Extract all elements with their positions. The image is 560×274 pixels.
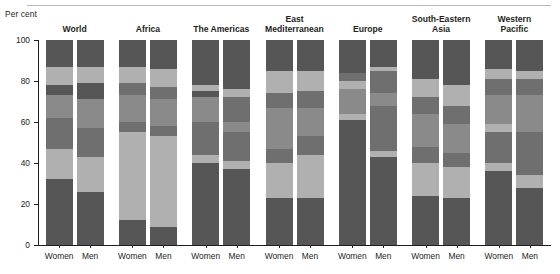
bar-western-pacific-women[interactable] [485, 40, 512, 245]
group-heading-africa: Africa [111, 24, 184, 34]
x-axis-tick [206, 245, 207, 248]
bar-segment [485, 40, 512, 69]
bar-segment [412, 79, 439, 97]
y-axis-caption: Per cent [5, 9, 37, 19]
x-axis-tick [237, 245, 238, 248]
bar-segment [266, 71, 293, 94]
bar-segment [485, 69, 512, 79]
bar-segment [266, 163, 293, 198]
bar-segment [77, 192, 104, 245]
bar-segment [266, 149, 293, 163]
bar-segment [192, 40, 219, 85]
bar-europe-men[interactable] [370, 40, 397, 245]
x-axis-tick [426, 245, 427, 248]
bar-segment [370, 106, 397, 151]
bar-the-americas-women[interactable] [192, 40, 219, 245]
bar-segment [297, 155, 324, 198]
x-axis-tick [163, 245, 164, 248]
bar-segment [192, 122, 219, 155]
x-axis-tick [499, 245, 500, 248]
bar-segment [370, 93, 397, 105]
bar-segment [119, 40, 146, 67]
bar-segment [223, 40, 250, 89]
x-axis-tick [457, 245, 458, 248]
bar-segment [443, 106, 470, 124]
bar-segment [119, 95, 146, 122]
bar-world-women[interactable] [46, 40, 73, 245]
bar-segment [266, 108, 293, 149]
bar-south-eastern-asia-men[interactable] [443, 40, 470, 245]
bar-segment [297, 91, 324, 107]
bar-segment [412, 163, 439, 196]
bar-segment [370, 157, 397, 245]
x-axis-tick [383, 245, 384, 248]
header-divider [27, 5, 551, 6]
bar-segment [339, 40, 366, 73]
bar-segment [150, 40, 177, 69]
bar-segment [485, 79, 512, 95]
bar-segment [339, 114, 366, 120]
bar-segment [266, 93, 293, 107]
bar-segment [297, 71, 324, 92]
group-heading-south-eastern-asia: South-Eastern Asia [404, 14, 477, 34]
bar-segment [119, 122, 146, 132]
bar-africa-men[interactable] [150, 40, 177, 245]
bar-segment [46, 40, 73, 67]
bar-segment [443, 40, 470, 85]
bar-segment [412, 196, 439, 245]
group-heading-western-pacific: Western Pacific [478, 14, 551, 34]
bar-segment [516, 79, 543, 95]
bar-africa-women[interactable] [119, 40, 146, 245]
bar-segment [46, 85, 73, 95]
bar-segment [485, 95, 512, 124]
x-axis-tick [132, 245, 133, 248]
bar-segment [150, 227, 177, 245]
bar-segment [412, 97, 439, 113]
bar-segment [192, 163, 219, 245]
bar-the-americas-men[interactable] [223, 40, 250, 245]
bar-segment [77, 128, 104, 157]
bar-segment [46, 118, 73, 149]
bar-segment [119, 132, 146, 220]
bar-east-mediterranean-men[interactable] [297, 40, 324, 245]
bar-segment [119, 67, 146, 83]
bar-segment [192, 85, 219, 91]
bar-segment [223, 161, 250, 169]
bar-segment [77, 99, 104, 128]
bar-segment [443, 124, 470, 153]
bar-europe-women[interactable] [339, 40, 366, 245]
bar-segment [192, 155, 219, 163]
bar-segment [150, 136, 177, 226]
bar-segment [443, 153, 470, 167]
bar-segment [339, 73, 366, 81]
bar-segment [339, 89, 366, 114]
bar-segment [412, 114, 439, 147]
bar-segment [516, 175, 543, 187]
bar-world-men[interactable] [77, 40, 104, 245]
bar-segment [119, 83, 146, 95]
bar-segment [443, 167, 470, 198]
bar-segment [485, 171, 512, 245]
bar-segment [150, 87, 177, 99]
bar-south-eastern-asia-women[interactable] [412, 40, 439, 245]
bar-segment [150, 99, 177, 126]
bar-segment [297, 136, 324, 154]
x-axis-tick [279, 245, 280, 248]
bar-segment [485, 163, 512, 171]
bar-segment [46, 179, 73, 245]
x-axis-tick [90, 245, 91, 248]
bar-segment [485, 132, 512, 163]
bar-segment [150, 126, 177, 136]
bar-western-pacific-men[interactable] [516, 40, 543, 245]
bar-segment [370, 71, 397, 94]
bar-segment [46, 95, 73, 118]
bar-segment [339, 81, 366, 89]
bar-east-mediterranean-women[interactable] [266, 40, 293, 245]
bar-segment [223, 89, 250, 97]
bar-segment [192, 91, 219, 97]
bar-segment [297, 108, 324, 137]
bar-segment [119, 220, 146, 245]
x-axis-tick [530, 245, 531, 248]
bar-segment [223, 169, 250, 245]
bar-segment [297, 40, 324, 71]
